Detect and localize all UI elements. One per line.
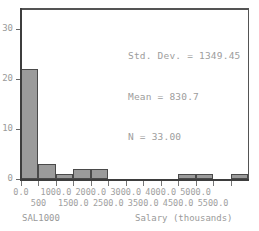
x-tick-label: 0.0 <box>13 188 28 197</box>
x-tick-label: 500 <box>31 199 46 208</box>
x-tick-mark <box>231 181 232 186</box>
x-tick-label: 5000.0 <box>180 188 211 197</box>
x-tick-label: 2000.0 <box>75 188 106 197</box>
x-tick-label: 4000.0 <box>145 188 176 197</box>
std-dev-text: Std. Dev. = 1349.45 <box>128 49 240 63</box>
y-tick-mark <box>16 79 20 80</box>
statistics-annotation: Std. Dev. = 1349.45 Mean = 830.7 N = 33.… <box>128 22 240 171</box>
y-tick-label: 0 <box>8 174 13 183</box>
x-axis-line <box>20 179 249 181</box>
x-tick-label: 1500.0 <box>58 199 89 208</box>
y-axis-line <box>20 8 22 180</box>
x-tick-mark <box>126 181 127 186</box>
x-tick-mark <box>56 181 57 186</box>
histogram-chart: 0102030 0.01000.02000.03000.04000.05000.… <box>0 0 259 231</box>
y-tick-mark <box>16 29 20 30</box>
y-tick-label: 30 <box>2 24 13 33</box>
y-tick-label: 20 <box>2 74 13 83</box>
x-tick-label: 4500.0 <box>163 199 194 208</box>
n-text: N = 33.00 <box>128 130 240 144</box>
x-tick-mark <box>21 181 22 186</box>
x-tick-mark <box>73 181 74 186</box>
x-tick-label: 1000.0 <box>41 188 72 197</box>
x-tick-mark <box>91 181 92 186</box>
mean-text: Mean = 830.7 <box>128 90 240 104</box>
x-tick-mark <box>38 181 39 186</box>
x-tick-mark <box>213 181 214 186</box>
histogram-bar <box>73 169 90 179</box>
x-tick-mark <box>161 181 162 186</box>
histogram-bar <box>38 164 55 179</box>
x-axis-title: Salary (thousands) <box>135 213 233 223</box>
x-tick-label: 5500.0 <box>198 199 229 208</box>
variable-name-label: SAL1000 <box>22 213 60 223</box>
x-tick-label: 2500.0 <box>93 199 124 208</box>
y-tick-label: 10 <box>2 124 13 133</box>
x-tick-mark <box>178 181 179 186</box>
x-tick-mark <box>108 181 109 186</box>
histogram-bar <box>91 169 108 179</box>
x-tick-label: 3000.0 <box>110 188 141 197</box>
x-tick-mark <box>143 181 144 186</box>
x-tick-mark <box>196 181 197 186</box>
histogram-bar <box>21 69 38 179</box>
x-tick-label: 3500.0 <box>128 199 159 208</box>
y-tick-mark <box>16 129 20 130</box>
